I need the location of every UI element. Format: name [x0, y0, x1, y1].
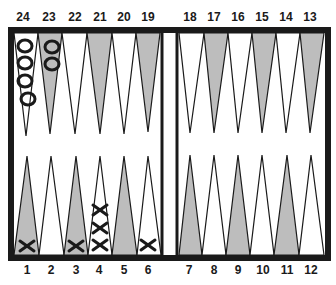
label-12: 12 [299, 263, 323, 277]
label-4: 4 [87, 263, 111, 277]
label-11: 11 [275, 263, 299, 277]
label-9: 9 [226, 263, 250, 277]
label-5: 5 [112, 263, 136, 277]
label-3: 3 [64, 263, 88, 277]
label-8: 8 [202, 263, 226, 277]
label-1: 1 [15, 263, 39, 277]
label-7: 7 [177, 263, 201, 277]
label-2: 2 [39, 263, 63, 277]
label-6: 6 [136, 263, 160, 277]
backgammon-board [0, 0, 336, 285]
label-10: 10 [251, 263, 275, 277]
bottom-point-labels: 1 2 3 4 5 6 7 8 9 10 11 12 [0, 263, 336, 279]
